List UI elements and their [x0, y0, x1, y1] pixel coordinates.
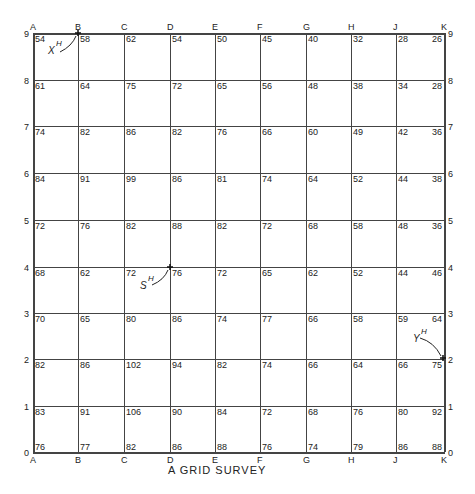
- grid-survey-diagram: AABBCCDDEEFFGGHHJJKK99887766554433221100…: [0, 0, 475, 494]
- survey-marker-sup: H: [421, 327, 427, 336]
- survey-marker-x: X: [48, 45, 55, 56]
- survey-marker-s: S: [140, 280, 147, 291]
- survey-marker-sup: H: [148, 274, 154, 283]
- survey-marker-y: Y: [413, 333, 420, 344]
- survey-marker-sup: H: [56, 39, 62, 48]
- marker-arrows: [0, 0, 475, 494]
